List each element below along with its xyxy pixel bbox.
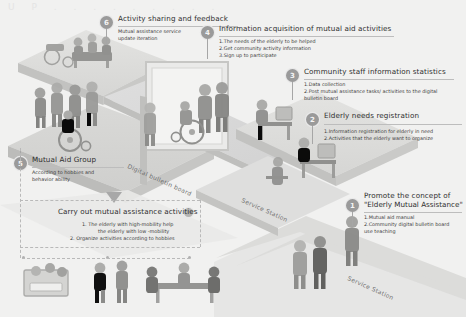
dashed-connector-top — [20, 200, 200, 201]
step-item-4-1: 1.The needs of the elderly to be helped — [219, 38, 316, 44]
bottom-item-2: the elderly with low -mobility — [98, 228, 169, 234]
step-title-4: Information acquisition of mutual aid ac… — [219, 24, 391, 33]
step-title-6: Activity sharing and feedback — [118, 14, 228, 23]
bottom-section-title: Carry out mutual assistance activities — [58, 207, 198, 216]
watermark: U P . . . . . . . . . — [8, 2, 221, 12]
bottom-item-3: 2. Organize activities according to hobb… — [70, 235, 174, 241]
step-title-2: Elderly needs registration — [324, 111, 419, 120]
step-pin-4 — [207, 39, 208, 59]
step-item-5-2: behavior ability — [32, 176, 70, 182]
step-rule-5 — [32, 167, 124, 168]
dashed-connector-bottom — [20, 247, 200, 248]
step-badge-4[interactable]: 4 — [201, 26, 214, 39]
step-item-4-3: 3.Sign up to participate — [219, 52, 277, 58]
step-item-1-2: 2.Community digital bulletin board — [364, 221, 449, 227]
step-pin-3 — [292, 82, 293, 100]
step-badge-6[interactable]: 6 — [100, 16, 113, 29]
step-item-5-1: According to hobbies and — [32, 169, 94, 175]
step-badge-3[interactable]: 3 — [286, 69, 299, 82]
step-item-3-3: bulletin board — [304, 95, 338, 101]
step-title-5: Mutual Aid Group — [32, 155, 96, 164]
step-item-4-2: 2.Get community activity information — [219, 45, 311, 51]
step-rule-1 — [364, 212, 462, 213]
step-pin-6 — [106, 29, 107, 45]
step-rule-3 — [304, 79, 454, 80]
step-rule-2 — [324, 124, 462, 125]
dashed-bottom-rail — [22, 258, 190, 259]
bottom-item-1: 1. The elderly with high-mobility help — [82, 221, 173, 227]
step-title-1: Promote the concept of — [364, 191, 450, 200]
step-item-1-1: 1.Mutual aid manual — [364, 214, 414, 220]
step-badge-1[interactable]: 1 — [346, 199, 359, 212]
down-arrow-icon — [106, 192, 122, 203]
step-title-3: Community staff information statistics — [304, 67, 446, 76]
infographic-canvas: U P . . . . . . . . . Digital bulletin b… — [0, 0, 466, 317]
step-item-6-2: update iteration — [118, 35, 157, 41]
step-pin-2 — [312, 126, 313, 144]
step-item-1-3: use teaching — [364, 228, 396, 234]
step-pin-1 — [352, 212, 353, 226]
step-item-2-2: 2.Activities that the elderly want to or… — [324, 135, 433, 141]
dashed-connector-right — [200, 200, 201, 247]
step-item-2-1: 1.Information registration for elderly i… — [324, 128, 433, 134]
step-title-1-line2: "Elderly Mutual Assistance" — [364, 200, 463, 209]
dashed-connector-left — [20, 148, 21, 258]
step-rule-4 — [219, 36, 394, 37]
step-badge-2[interactable]: 2 — [306, 113, 319, 126]
step-item-3-1: 1.Data collection — [304, 81, 345, 87]
step-item-6-1: Mutual assistance service — [118, 28, 181, 34]
step-item-3-2: 2.Post mutual assistance tasks/ activiti… — [304, 88, 437, 94]
